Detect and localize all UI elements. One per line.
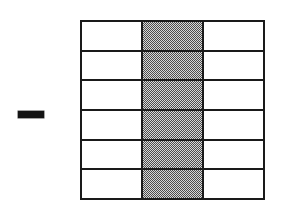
cell-r6c1 [82,170,143,198]
cell-r1c3 [204,22,263,50]
cell-r1c1 [82,22,143,50]
cell-r1c2 [143,22,204,50]
cell-r4c2 [143,111,204,139]
cell-r3c3 [204,81,263,109]
cell-r4c3 [204,111,263,139]
cell-r2c2 [143,52,204,80]
cell-r5c3 [204,141,263,169]
grid-row [82,52,263,82]
grid-row [82,111,263,141]
figure-canvas [0,0,284,209]
grid-row [82,170,263,198]
cell-r6c3 [204,170,263,198]
minus-dash-icon [18,111,44,118]
cell-r5c1 [82,141,143,169]
cell-r5c2 [143,141,204,169]
fraction-grid [80,20,265,200]
cell-r4c1 [82,111,143,139]
grid-row [82,141,263,171]
cell-r3c1 [82,81,143,109]
grid-row [82,22,263,52]
grid-row [82,81,263,111]
cell-r3c2 [143,81,204,109]
cell-r2c1 [82,52,143,80]
cell-r2c3 [204,52,263,80]
cell-r6c2 [143,170,204,198]
